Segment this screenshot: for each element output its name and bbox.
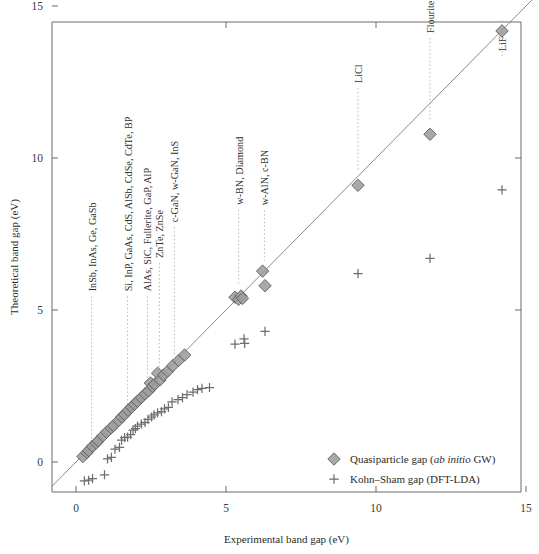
annotation-label: LiF [497,36,508,51]
data-point-plus [84,476,93,485]
band-gap-scatter-figure: 051015051015Experimental band gap (eV)Th… [0,0,539,554]
legend: Quasiparticle gap (ab initio GW)Kohn–Sha… [328,453,496,486]
data-point-plus [497,185,506,194]
annotation-label: AlAs, SiC, Fullerite, GaP, AlP [142,168,153,292]
y-tick-label: 15 [32,0,44,12]
annotation-label: Flourite [425,0,436,33]
data-point-plus [425,254,434,263]
data-point-plus [173,395,182,404]
y-tick-label: 0 [37,456,43,468]
y-tick-label: 10 [32,152,44,164]
annotation-label: w-AlN, c-BN [259,149,270,205]
annotation-label: ZnTe, ZnSe [154,209,165,257]
data-point-plus [88,474,97,483]
data-point-diamond [259,279,271,291]
data-point-plus [115,443,124,452]
x-tick-label: 0 [73,502,79,514]
y-tick-label: 5 [37,304,43,316]
x-tick-label: 15 [520,502,532,514]
annotation-label: InSb, InAs, Ge, GaSb [87,202,98,291]
data-point-plus [260,327,269,336]
data-point-plus [205,383,214,392]
data-point-diamond [424,128,436,140]
data-point-plus [329,474,339,484]
data-point-plus [107,453,116,462]
x-axis-title: Experimental band gap (eV) [224,533,349,546]
annotation-label: w-BN, Diamond [234,137,245,205]
legend-label-kohn-sham: Kohn–Sham gap (DFT-LDA) [350,473,480,486]
data-point-plus [110,445,119,454]
data-point-plus [103,454,112,463]
data-point-plus [128,425,137,434]
annotation-label: c-GaN, w-GaN, InS [169,141,180,223]
data-point-plus [193,385,202,394]
data-point-diamond [256,265,268,277]
data-point-diamond [328,453,340,465]
data-point-plus [197,384,206,393]
x-tick-label: 10 [370,502,382,514]
x-tick-label: 5 [223,502,229,514]
data-point-plus [100,470,109,479]
data-point-plus [188,387,197,396]
data-point-plus [353,269,362,278]
data-point-plus [240,339,249,348]
annotation-label: Si, InP, GaAs, CdS, AlSb, CdSe, CdTe, BP [123,116,134,291]
chart-canvas: 051015051015Experimental band gap (eV)Th… [0,0,539,554]
annotation-label: LiCl [353,64,364,83]
legend-label-quasiparticle: Quasiparticle gap (ab initio GW) [350,453,496,466]
data-point-plus [230,339,239,348]
data-point-plus [131,424,140,433]
y-axis-title: Theoretical band gap (eV) [8,199,21,315]
